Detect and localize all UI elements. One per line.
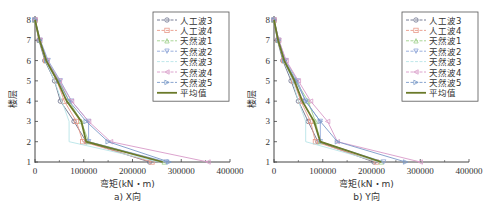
- y-tick-label: 6: [27, 56, 32, 66]
- x-tick-label: 400000: [456, 166, 484, 176]
- x-tick-label: 100000: [70, 166, 98, 176]
- x-axis-label: 弯矩(kN・m): [339, 178, 394, 189]
- legend-label: 天然波4: [180, 68, 212, 78]
- legend-label: 天然波3: [429, 57, 461, 67]
- legend: 人工波3人工波4天然波1天然波2天然波3天然波4天然波5平均值: [402, 12, 478, 101]
- y-tick-label: 1: [27, 157, 32, 167]
- plot-area: [272, 18, 423, 164]
- legend-label: 天然波2: [180, 47, 212, 57]
- y-tick-label: 2: [27, 137, 32, 147]
- x-tick-label: 0: [33, 166, 38, 176]
- series-line: [274, 20, 384, 162]
- y-tick-label: 7: [27, 35, 32, 45]
- x-axis-label: 弯矩(kN・m): [100, 178, 155, 189]
- series-line: [35, 20, 167, 162]
- series-line: [274, 20, 379, 162]
- legend-label: 平均值: [429, 88, 456, 98]
- series-line: [274, 20, 381, 162]
- chart-caption: b) Y向: [353, 191, 380, 202]
- legend-label: 天然波3: [180, 57, 212, 67]
- x-tick-label: 200000: [119, 166, 147, 176]
- chart-caption: a) X向: [114, 191, 141, 202]
- legend-label: 天然波1: [180, 36, 212, 46]
- series-line: [274, 20, 381, 162]
- series-line: [35, 20, 163, 162]
- y-axis-label: 楼层: [7, 90, 18, 108]
- x-tick-label: 0: [272, 166, 277, 176]
- x-tick-label: 100000: [309, 166, 337, 176]
- y-axis-label: 楼层: [246, 90, 257, 108]
- x-tick-label: 300000: [168, 166, 196, 176]
- y-tick-label: 6: [266, 56, 271, 66]
- x-tick-label: 400000: [217, 166, 245, 176]
- series-line: [274, 20, 374, 162]
- legend-label: 天然波1: [429, 36, 461, 46]
- chart-x-direction: 123456780100000200000300000400000弯矩(kN・m…: [0, 0, 245, 214]
- y-tick-label: 8: [27, 15, 32, 25]
- x-tick-label: 200000: [358, 166, 386, 176]
- y-tick-label: 8: [266, 15, 271, 25]
- legend-label: 平均值: [180, 88, 207, 98]
- y-tick-label: 7: [266, 35, 271, 45]
- legend-label: 人工波3: [180, 16, 212, 26]
- series-line: [274, 20, 376, 162]
- series-line: [35, 20, 164, 162]
- legend-label: 天然波2: [429, 47, 461, 57]
- y-tick-label: 3: [266, 116, 271, 126]
- figure: 123456780100000200000300000400000弯矩(kN・m…: [0, 0, 489, 214]
- y-tick-label: 2: [266, 137, 271, 147]
- y-tick-label: 3: [27, 116, 32, 126]
- legend: 人工波3人工波4天然波1天然波2天然波3天然波4天然波5平均值: [153, 12, 229, 101]
- legend-label: 人工波3: [429, 16, 461, 26]
- series-line: [274, 20, 420, 162]
- y-tick-label: 1: [266, 157, 271, 167]
- series-line: [35, 20, 150, 162]
- legend-label: 天然波5: [429, 78, 461, 88]
- y-tick-label: 5: [266, 76, 271, 86]
- legend-label: 天然波4: [429, 68, 461, 78]
- series-line: [35, 20, 169, 162]
- legend-label: 人工波4: [180, 26, 212, 36]
- series-line: [35, 20, 152, 162]
- chart-y-direction: 123456780100000200000300000400000弯矩(kN・m…: [244, 0, 489, 214]
- y-tick-label: 4: [266, 96, 271, 106]
- y-tick-label: 5: [27, 76, 32, 86]
- x-tick-label: 300000: [407, 166, 435, 176]
- legend-label: 人工波4: [429, 26, 461, 36]
- y-tick-label: 4: [27, 96, 32, 106]
- legend-label: 天然波5: [180, 78, 212, 88]
- series-line: [35, 20, 159, 162]
